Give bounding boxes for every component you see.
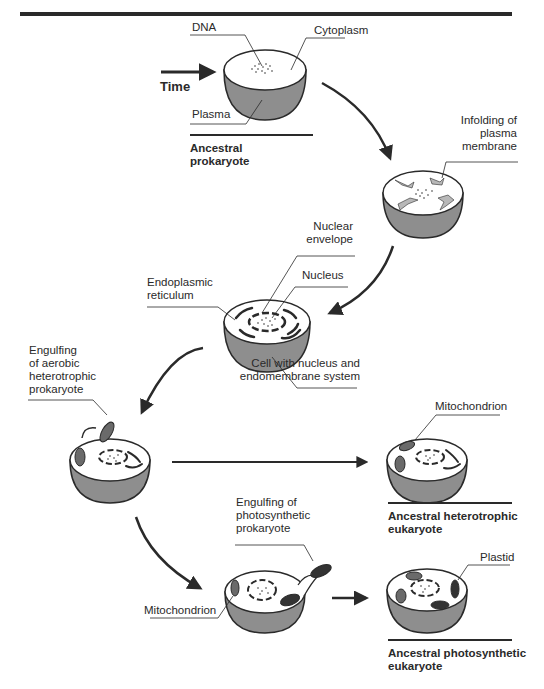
infolding-label-3: membrane <box>462 140 517 153</box>
plastid-icon <box>431 601 449 609</box>
engulfing-photosynthetic-cell <box>150 545 333 633</box>
photosynthetic-prokaryote-icon <box>309 562 333 580</box>
arrow-1-to-2 <box>322 83 390 158</box>
engulfing-aerobic-label-3: heterotrophic <box>29 370 96 383</box>
diagram-artwork <box>0 0 544 689</box>
arrow-4-to-6 <box>136 517 200 588</box>
ancestral-photosynthetic-eukaryote-cell <box>387 565 512 640</box>
nuclear-envelope-label-2: envelope <box>306 233 353 246</box>
er-label-1: Endoplasmic <box>147 276 213 289</box>
dna-label: DNA <box>192 21 216 34</box>
photosynthetic-eukaryote-caption-1: Ancestral photosynthetic <box>388 647 526 660</box>
ancestral-prokaryote-caption-2: prokaryote <box>190 155 249 168</box>
time-label: Time <box>160 80 190 93</box>
nuclear-envelope-label-1: Nuclear <box>313 220 353 233</box>
ancestral-prokaryote-caption-1: Ancestral <box>190 142 242 155</box>
mitochondrion-label-photosynthetic: Mitochondrion <box>144 604 216 617</box>
photosynthetic-eukaryote-caption-2: eukaryote <box>388 660 442 673</box>
mitochondrion-icon <box>396 589 406 603</box>
plastid-icon <box>451 580 459 598</box>
engulfing-aerobic-cell <box>28 400 150 503</box>
mitochondrion-icon <box>395 456 405 472</box>
infolding-label-1: Infolding of <box>461 114 517 127</box>
engulfing-photosynthetic-label-1: Engulfing of <box>236 496 297 509</box>
engulfing-photosynthetic-label-2: photosynthetic <box>236 509 310 522</box>
engulfing-aerobic-label-1: Engulfing <box>29 344 77 357</box>
cytoplasm-label: Cytoplasm <box>314 24 368 37</box>
cell-description-label-1: Cell with nucleus and <box>251 357 360 370</box>
heterotrophic-eukaryote-caption-2: eukaryote <box>388 523 442 536</box>
engulfing-aerobic-label-4: prokaryote <box>29 383 83 396</box>
nucleus-label: Nucleus <box>302 269 344 282</box>
engulfing-aerobic-label-2: of aerobic <box>29 357 80 370</box>
arrow-3-to-4 <box>142 348 203 412</box>
plasma-label: Plasma <box>192 108 230 121</box>
mitochondrion-label-heterotrophic: Mitochondrion <box>435 400 507 413</box>
mitochondrion-icon <box>406 572 422 580</box>
mitochondrion-icon <box>231 580 239 596</box>
mitochondrion-icon <box>75 448 85 466</box>
infolding-label-2: plasma <box>480 127 517 140</box>
plastid-label: Plastid <box>480 551 515 564</box>
engulfing-photosynthetic-label-3: prokaryote <box>236 522 290 535</box>
ancestral-heterotrophic-eukaryote-cell <box>387 415 512 503</box>
infolding-cell <box>383 162 518 238</box>
heterotrophic-eukaryote-caption-1: Ancestral heterotrophic <box>388 510 518 523</box>
er-label-2: reticulum <box>147 289 194 302</box>
cell-description-label-2: endomembrane system <box>240 370 360 383</box>
